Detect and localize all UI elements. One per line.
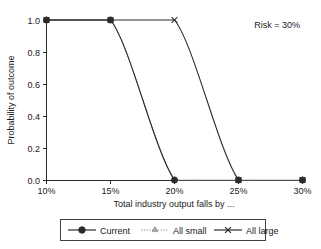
series-line-current [47,20,175,180]
x-tick-label-1: 15% [101,186,119,196]
legend-label-all-large: All large [246,226,279,236]
x-tick-label-4: 30% [293,186,311,196]
chart-legend: Current All small All large [61,220,279,241]
y-tick-label-3: 0.6 [27,80,40,90]
risk-annotation: Risk = 30% [254,20,300,30]
chart-figure: 0.0 0.2 0.4 0.6 0.8 1.0 10% 15% 20% 25% … [0,0,321,249]
x-axis-title: Total industry output falls by ... [113,199,234,209]
y-tick-label-5: 1.0 [27,16,40,26]
y-tick-label-2: 0.4 [27,112,40,122]
y-tick-label-4: 0.8 [27,48,40,58]
y-tick-label-1: 0.2 [27,144,40,154]
filled-circle-icon [79,227,86,234]
x-tick-label-3: 25% [229,186,247,196]
x-tick-label-2: 20% [165,186,183,196]
legend-label-current: Current [100,226,131,236]
series-markers-current [43,17,305,183]
y-axis-title: Probability of outcome [6,55,16,144]
series-markers-all-large [44,17,306,183]
series-markers-all-small [44,17,306,182]
x-tick-label-0: 10% [37,186,55,196]
legend-label-all-small: All small [173,226,207,236]
y-tick-label-0: 0.0 [27,176,40,186]
series-line-all-small [47,20,303,180]
probability-of-outcome-line-chart: 0.0 0.2 0.4 0.6 0.8 1.0 10% 15% 20% 25% … [0,0,321,249]
y-axis-ticks [43,21,47,181]
